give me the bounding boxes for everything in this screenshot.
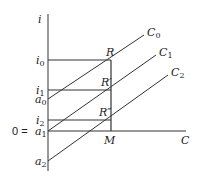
tick-a1: a1 [35,125,47,139]
point-m: M [103,134,116,147]
tick-a2: a2 [35,155,47,169]
label-c2: C2 [171,66,185,80]
point-r: R [105,46,114,59]
tick-a0: a0 [35,93,47,107]
label-c0: C0 [147,26,161,40]
diagram-svg: i C i0 i1 a0 i2 0 = a1 a2 C0 C1 C2 R R′ … [0,0,199,183]
tick-zero-prefix: 0 = [12,125,28,137]
y-axis-label: i [38,13,42,26]
x-axis-label: C [181,134,190,147]
point-r-double-prime: R″ [98,106,112,119]
tick-i0: i0 [36,54,45,68]
point-r-prime: R′ [100,76,112,89]
diagram: i C i0 i1 a0 i2 0 = a1 a2 C0 C1 C2 R R′ … [0,0,199,183]
c0-line [48,35,144,99]
label-c1: C1 [159,46,173,60]
